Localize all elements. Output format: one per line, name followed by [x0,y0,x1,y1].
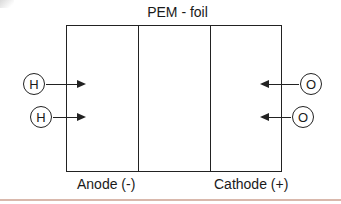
cathode-label: Cathode (+) [214,176,288,192]
oxygen-symbol: O [298,110,308,125]
arrow-left-icon [262,84,299,85]
anode-membrane-divider [138,25,139,172]
hydrogen-symbol: H [29,77,38,92]
bottom-divider [0,199,341,201]
hydrogen-circle-1: H [23,73,45,95]
hydrogen-circle-2: H [30,106,52,128]
arrow-left-icon [262,117,291,118]
membrane-cathode-divider [210,25,211,172]
hydrogen-symbol: H [36,110,45,125]
pem-cell-box [66,25,282,172]
arrow-right-icon [46,84,84,85]
oxygen-circle-1: O [300,73,322,95]
diagram-title: PEM - foil [0,4,341,20]
arrow-right-icon [53,117,84,118]
oxygen-circle-2: O [292,106,314,128]
anode-label: Anode (-) [77,176,135,192]
oxygen-symbol: O [306,77,316,92]
